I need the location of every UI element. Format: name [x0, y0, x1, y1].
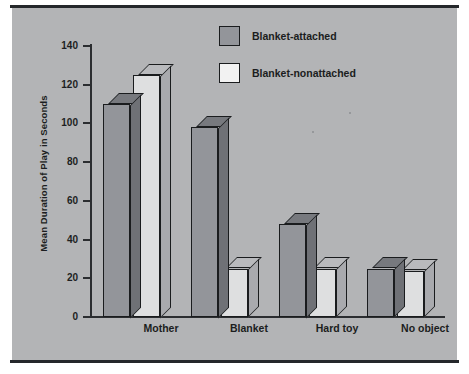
y-axis-tick	[83, 122, 90, 124]
x-axis-label-mother: Mother	[116, 322, 206, 334]
legend-swatch-blanket-nonattached	[219, 63, 240, 83]
legend-label-blanket-nonattached: Blanket-nonattached	[252, 67, 356, 79]
legend: Blanket-attached Blanket-nonattached	[219, 26, 356, 100]
x-axis-label-no-object: No object	[380, 322, 469, 334]
bar-side-face	[218, 117, 229, 318]
y-axis-tick-label: 40	[38, 235, 78, 245]
y-axis-tick	[83, 84, 90, 86]
y-axis-tick	[83, 316, 90, 318]
y-axis-tick-label: 0	[38, 312, 78, 322]
y-axis-tick-label: 20	[38, 273, 78, 283]
bar-hard-toy-attached	[279, 224, 306, 317]
bar-blanket-attached	[191, 127, 218, 317]
figure-container: Mean Duration of Play in Seconds 0204060…	[0, 0, 469, 374]
y-axis-tick-label: 60	[38, 196, 78, 206]
legend-label-blanket-attached: Blanket-attached	[252, 30, 337, 42]
legend-swatch-blanket-attached	[219, 26, 240, 46]
bar-no-object-attached	[367, 269, 394, 317]
y-axis-tick	[83, 161, 90, 163]
y-axis-tick-label: 80	[38, 157, 78, 167]
bar-side-face	[306, 214, 317, 318]
chart-panel: Mean Duration of Play in Seconds 0204060…	[12, 8, 457, 360]
bottom-rule	[10, 360, 459, 363]
bar-side-face	[130, 94, 141, 318]
y-axis-tick-label: 140	[38, 41, 78, 51]
paper-speck	[349, 112, 351, 114]
y-axis-tick-label: 120	[38, 80, 78, 90]
bar-side-face	[424, 261, 435, 318]
y-axis-tick	[83, 239, 90, 241]
x-axis-label-blanket: Blanket	[204, 322, 294, 334]
y-axis-tick	[83, 45, 90, 47]
y-axis-tick-label: 100	[38, 118, 78, 128]
bar-side-face	[160, 65, 171, 318]
paper-speck	[312, 131, 314, 133]
x-axis-label-hard-toy: Hard toy	[292, 322, 382, 334]
y-axis-tick	[83, 277, 90, 279]
legend-item: Blanket-nonattached	[219, 63, 356, 83]
legend-item: Blanket-attached	[219, 26, 356, 46]
y-axis-line	[90, 44, 92, 318]
bar-side-face	[336, 259, 347, 318]
bar-side-face	[248, 259, 259, 318]
plot-area: Mean Duration of Play in Seconds 0204060…	[12, 8, 457, 360]
bar-mother-attached	[103, 104, 130, 317]
y-axis-tick	[83, 200, 90, 202]
